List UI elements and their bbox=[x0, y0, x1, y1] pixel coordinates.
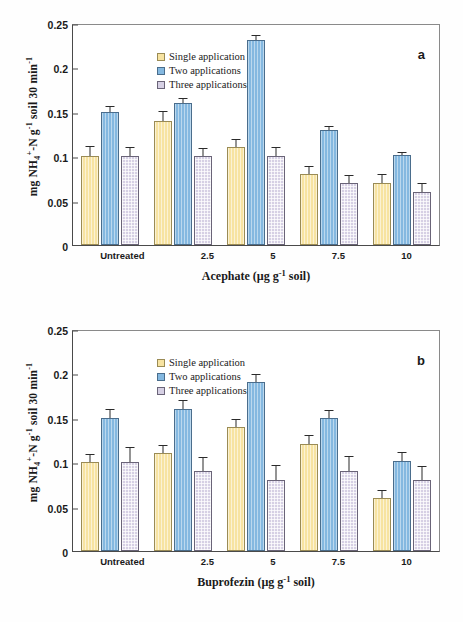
y-axis-tick-mark bbox=[73, 25, 78, 26]
error-bar-cap bbox=[271, 465, 280, 466]
error-bar-cap bbox=[251, 35, 260, 36]
bar-slot bbox=[267, 331, 285, 551]
error-bar bbox=[422, 467, 423, 480]
bar[interactable] bbox=[300, 174, 318, 245]
bar[interactable] bbox=[101, 112, 119, 245]
bar[interactable] bbox=[227, 427, 245, 551]
error-bar bbox=[402, 453, 403, 461]
y-axis-tick-label: 0.1 bbox=[53, 458, 73, 470]
error-bar-cap bbox=[125, 147, 134, 148]
bar-slot bbox=[320, 25, 338, 245]
bar[interactable] bbox=[121, 156, 139, 245]
bar[interactable] bbox=[393, 155, 411, 245]
error-bar bbox=[182, 99, 183, 103]
y-axis-tick-label: 0.2 bbox=[53, 369, 73, 381]
bar[interactable] bbox=[174, 409, 192, 551]
error-bar bbox=[202, 149, 203, 156]
bar-slot bbox=[81, 331, 99, 551]
error-bar bbox=[275, 466, 276, 480]
error-bar bbox=[382, 175, 383, 183]
error-bar-cap bbox=[345, 456, 354, 457]
bar[interactable] bbox=[267, 156, 285, 245]
y-axis-tick-mark bbox=[73, 331, 78, 332]
bar[interactable] bbox=[247, 40, 265, 245]
bar[interactable] bbox=[340, 183, 358, 245]
error-bar bbox=[89, 147, 90, 156]
error-bar-cap bbox=[398, 452, 407, 453]
bar-group bbox=[81, 331, 139, 551]
bar-groups-b bbox=[73, 331, 439, 551]
y-axis-tick-mark bbox=[73, 158, 78, 159]
bar[interactable] bbox=[154, 121, 172, 245]
bar-slot bbox=[154, 25, 172, 245]
bar-group bbox=[373, 331, 431, 551]
bar[interactable] bbox=[247, 382, 265, 551]
x-axis-tick-label: 2.5 bbox=[201, 246, 214, 261]
bar[interactable] bbox=[393, 461, 411, 551]
error-bar-cap bbox=[398, 152, 407, 153]
bar-slot bbox=[174, 25, 192, 245]
error-bar-cap bbox=[418, 466, 427, 467]
error-bar-cap bbox=[178, 400, 187, 401]
y-axis-tick-mark bbox=[73, 419, 78, 420]
error-bar-cap bbox=[305, 166, 314, 167]
error-bar-cap bbox=[378, 174, 387, 175]
bar-slot bbox=[194, 25, 212, 245]
error-bar-cap bbox=[251, 374, 260, 375]
figure-caption-partial bbox=[16, 608, 446, 618]
bar-slot bbox=[194, 331, 212, 551]
bar-slot bbox=[320, 331, 338, 551]
error-bar bbox=[309, 167, 310, 174]
error-bar-cap bbox=[158, 111, 167, 112]
bar-group bbox=[227, 25, 285, 245]
bar-group bbox=[300, 331, 358, 551]
chart-panel-a: mg NH4+-N g-1 soil 30 min-1 Single appli… bbox=[0, 6, 463, 306]
bar-group bbox=[373, 25, 431, 245]
bar[interactable] bbox=[300, 444, 318, 551]
bar-slot bbox=[227, 331, 245, 551]
bar-slot bbox=[340, 331, 358, 551]
bar[interactable] bbox=[174, 103, 192, 245]
bar[interactable] bbox=[320, 418, 338, 551]
bar[interactable] bbox=[340, 471, 358, 551]
bar[interactable] bbox=[413, 192, 431, 245]
y-axis-tick-mark bbox=[73, 464, 78, 465]
bar-slot bbox=[247, 25, 265, 245]
error-bar-cap bbox=[85, 146, 94, 147]
bar[interactable] bbox=[413, 480, 431, 551]
error-bar bbox=[255, 36, 256, 40]
bar[interactable] bbox=[373, 183, 391, 245]
error-bar bbox=[275, 148, 276, 156]
bar[interactable] bbox=[81, 156, 99, 245]
error-bar-cap bbox=[178, 98, 187, 99]
bar-group bbox=[81, 25, 139, 245]
error-bar bbox=[255, 375, 256, 382]
bar[interactable] bbox=[81, 462, 99, 551]
error-bar-cap bbox=[325, 126, 334, 127]
bar-slot bbox=[121, 25, 139, 245]
y-axis-tick-mark bbox=[73, 508, 78, 509]
x-axis-tick-label: Untreated bbox=[100, 552, 144, 567]
x-axis-tick-label: 7.5 bbox=[332, 552, 345, 567]
error-bar bbox=[349, 176, 350, 183]
error-bar-cap bbox=[125, 447, 134, 448]
error-bar bbox=[329, 411, 330, 418]
bar[interactable] bbox=[154, 453, 172, 551]
error-bar-cap bbox=[271, 147, 280, 148]
bar[interactable] bbox=[267, 480, 285, 551]
bar[interactable] bbox=[194, 156, 212, 245]
bar[interactable] bbox=[320, 130, 338, 245]
x-axis-ticks-a: Untreated2.557.510 bbox=[72, 246, 440, 261]
bar-slot bbox=[247, 331, 265, 551]
y-axis-tick-mark bbox=[73, 375, 78, 376]
y-axis-tick-mark bbox=[73, 69, 78, 70]
bar[interactable] bbox=[121, 462, 139, 551]
error-bar bbox=[89, 455, 90, 462]
bar[interactable] bbox=[194, 471, 212, 551]
bar[interactable] bbox=[101, 418, 119, 551]
bar[interactable] bbox=[373, 498, 391, 551]
bar-slot bbox=[154, 331, 172, 551]
bar[interactable] bbox=[227, 147, 245, 245]
bar-group bbox=[154, 25, 212, 245]
error-bar bbox=[109, 410, 110, 418]
